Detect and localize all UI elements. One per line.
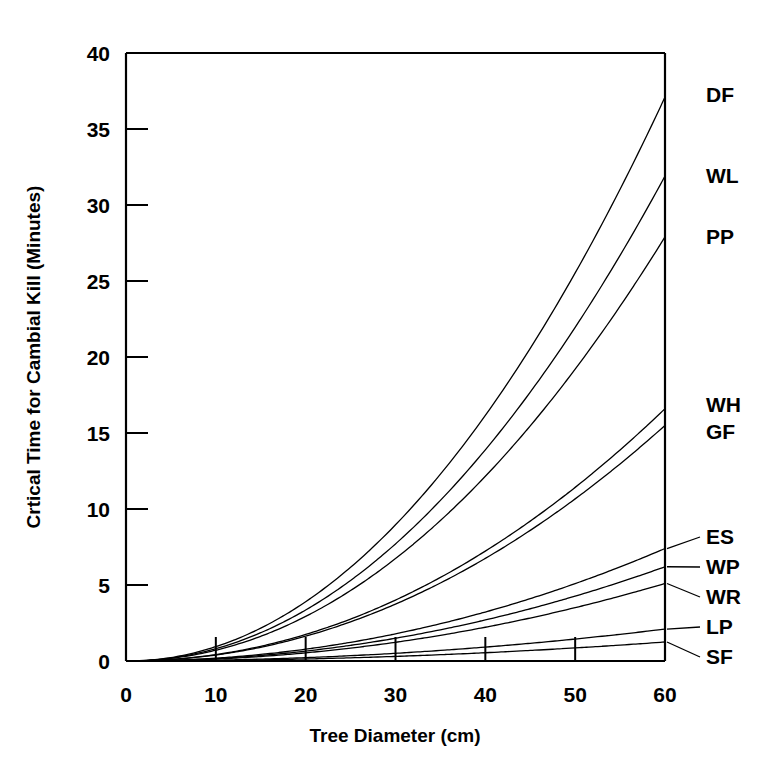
x-tick-label-0: 0 xyxy=(120,683,132,706)
y-tick-label-35: 35 xyxy=(87,118,111,141)
series-label-DF: DF xyxy=(706,83,734,106)
x-tick-label-10: 10 xyxy=(204,683,227,706)
series-label-LP: LP xyxy=(706,615,733,638)
series-label-PP: PP xyxy=(706,225,734,248)
x-tick-label-50: 50 xyxy=(563,683,586,706)
x-tick-label-20: 20 xyxy=(294,683,317,706)
series-label-SF: SF xyxy=(706,645,733,668)
x-tick-label-30: 30 xyxy=(384,683,407,706)
series-label-WP: WP xyxy=(706,555,740,578)
x-tick-label-60: 60 xyxy=(653,683,676,706)
y-tick-label-15: 15 xyxy=(87,422,111,445)
cambial-kill-time-chart: 0510152025303540 0102030405060 DFWLPPWHG… xyxy=(0,0,766,774)
y-tick-label-10: 10 xyxy=(87,498,110,521)
y-tick-label-30: 30 xyxy=(87,194,110,217)
y-tick-label-0: 0 xyxy=(98,650,110,673)
y-tick-label-5: 5 xyxy=(98,574,110,597)
series-label-WR: WR xyxy=(706,585,741,608)
x-tick-label-40: 40 xyxy=(474,683,497,706)
y-tick-label-40: 40 xyxy=(87,42,110,65)
y-axis-title: Crtical Time for Cambial Kill (Minutes) xyxy=(23,186,44,529)
series-label-GF: GF xyxy=(706,420,735,443)
series-label-WL: WL xyxy=(706,164,739,187)
y-tick-label-25: 25 xyxy=(87,270,111,293)
chart-background xyxy=(0,0,766,774)
x-axis-title: Tree Diameter (cm) xyxy=(309,725,480,746)
series-label-WH: WH xyxy=(706,393,741,416)
series-label-ES: ES xyxy=(706,525,734,548)
y-tick-label-20: 20 xyxy=(87,346,110,369)
